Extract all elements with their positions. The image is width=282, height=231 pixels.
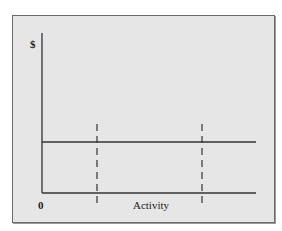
x-axis-label: Activity (133, 199, 170, 211)
origin-label: 0 (38, 199, 44, 211)
y-axis-label: $ (30, 38, 36, 50)
fixed-cost-chart: $ 0 Activity (0, 0, 282, 231)
